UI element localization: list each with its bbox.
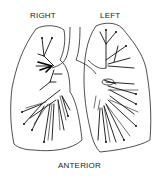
trachea [52,27,96,74]
right-label: RIGHT [30,12,56,20]
anterior-label: ANTERIOR [58,162,101,170]
right-lung [11,26,82,151]
lung-illustration [0,0,168,178]
left-label: LEFT [100,12,120,20]
lung-diagram: RIGHT LEFT ANTERIOR [0,0,168,178]
left-lung [84,23,151,152]
